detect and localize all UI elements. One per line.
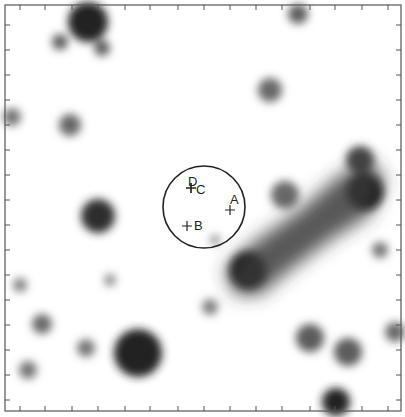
marker-label: A [230, 192, 239, 207]
source-blob [68, 2, 108, 42]
source-blob [271, 181, 299, 209]
source-blob [59, 114, 81, 136]
source-blob [322, 388, 350, 416]
source-blob [3, 108, 21, 126]
source-blob [288, 4, 308, 24]
source-blob [19, 361, 37, 379]
astronomical-field-image: ABCD [0, 0, 405, 417]
marker-label: D [188, 174, 197, 189]
source-blob [32, 314, 52, 334]
marker-label: C [196, 182, 205, 197]
source-blob [81, 199, 115, 233]
source-blob [296, 324, 324, 352]
source-blob [202, 299, 218, 315]
source-blob [13, 278, 27, 292]
source-blob [94, 40, 110, 56]
source-blob [258, 78, 282, 102]
source-blob [334, 338, 362, 366]
source-blob [114, 329, 162, 377]
source-blob [77, 339, 95, 357]
source-blob [385, 322, 405, 342]
source-blob [52, 34, 68, 50]
source-blob [210, 235, 220, 245]
marker-label: B [194, 218, 203, 233]
source-blob [104, 274, 116, 286]
source-blob [372, 242, 388, 258]
